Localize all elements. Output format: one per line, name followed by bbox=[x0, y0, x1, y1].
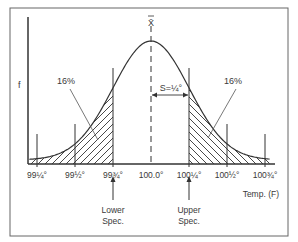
lower-spec-marker: Lower Spec. bbox=[101, 176, 124, 226]
hatch-line bbox=[269, 44, 298, 164]
lower-tail-hatch bbox=[0, 44, 298, 164]
lower-tail-leader-line bbox=[70, 89, 98, 140]
hatch-line bbox=[80, 44, 200, 164]
lower-spec-label-line2: Spec. bbox=[102, 216, 124, 226]
hatch-line bbox=[0, 44, 109, 164]
hatch-line bbox=[248, 44, 298, 164]
x-tick-label: 100½° bbox=[215, 170, 240, 180]
hatch-line bbox=[227, 44, 298, 164]
hatch-line bbox=[276, 44, 298, 164]
hatch-line bbox=[0, 44, 4, 164]
hatch-line bbox=[262, 44, 298, 164]
hatch-line bbox=[0, 44, 109, 164]
hatch-line bbox=[0, 44, 60, 164]
hatch-line bbox=[255, 44, 298, 164]
hatch-line bbox=[0, 44, 18, 164]
hatch-line bbox=[0, 44, 25, 164]
hatch-line bbox=[0, 44, 25, 164]
hatch-line bbox=[241, 44, 298, 164]
hatch-line bbox=[290, 44, 298, 164]
hatch-line bbox=[220, 44, 298, 164]
hatch-line bbox=[0, 44, 39, 164]
sigma-arrowhead-left bbox=[152, 93, 157, 98]
distribution-curve bbox=[29, 41, 269, 159]
hatch-line bbox=[227, 44, 298, 164]
hatch-line bbox=[276, 44, 298, 164]
upper-tail-hatch bbox=[0, 44, 298, 164]
hatch-line bbox=[241, 44, 298, 164]
normal-distribution-chart: 99¼°99½°99¾°100.0°100¼°100½°100¾° f X̄ S… bbox=[0, 0, 298, 242]
hatch-line bbox=[297, 44, 298, 164]
x-axis-label: Temp. (F) bbox=[243, 189, 280, 199]
sigma-arrowhead-right bbox=[183, 93, 188, 98]
y-axis-label: f bbox=[18, 80, 21, 90]
hatch-line bbox=[108, 44, 228, 164]
hatch-line bbox=[0, 44, 39, 164]
hatch-line bbox=[122, 44, 242, 164]
hatch-line bbox=[0, 44, 11, 164]
hatch-line bbox=[0, 44, 18, 164]
hatch-line bbox=[0, 44, 4, 164]
hatch-line bbox=[297, 44, 298, 164]
hatch-line bbox=[220, 44, 298, 164]
hatch-line bbox=[0, 44, 46, 164]
hatch-line bbox=[66, 44, 186, 164]
hatch-line bbox=[192, 44, 298, 164]
hatch-line bbox=[206, 44, 298, 164]
hatch-line bbox=[262, 44, 298, 164]
hatch-line bbox=[59, 44, 179, 164]
hatch-line bbox=[199, 44, 298, 164]
hatch-line bbox=[0, 44, 60, 164]
hatch-line bbox=[0, 44, 95, 164]
hatch-line bbox=[0, 44, 102, 164]
x-tick-label: 100¾° bbox=[253, 170, 278, 180]
hatch-line bbox=[199, 44, 298, 164]
mean-label: X̄ bbox=[148, 18, 154, 28]
hatch-line bbox=[248, 44, 298, 164]
hatch-line bbox=[213, 44, 298, 164]
hatch-line bbox=[185, 44, 298, 164]
sigma-annotation bbox=[152, 93, 188, 98]
lower-spec-label-line1: Lower bbox=[101, 205, 124, 215]
hatch-line bbox=[0, 44, 81, 164]
hatch-line bbox=[185, 44, 298, 164]
hatch-line bbox=[192, 44, 298, 164]
hatch-line bbox=[0, 44, 11, 164]
upper-spec-marker: Upper Spec. bbox=[177, 176, 200, 226]
x-tick-label: 100.0° bbox=[139, 170, 164, 180]
hatch-line bbox=[101, 44, 221, 164]
hatch-line bbox=[0, 44, 32, 164]
upper-spec-label-line1: Upper bbox=[177, 205, 200, 215]
hatch-line bbox=[255, 44, 298, 164]
upper-tail-percent-label: 16% bbox=[224, 76, 242, 86]
sigma-label: S=¼° bbox=[160, 83, 183, 93]
upper-spec-label-line2: Spec. bbox=[178, 216, 200, 226]
upper-tail-leader-line bbox=[208, 89, 236, 138]
hatch-line bbox=[0, 44, 81, 164]
hatch-line bbox=[0, 44, 46, 164]
hatch-line bbox=[213, 44, 298, 164]
hatch-line bbox=[283, 44, 298, 164]
hatch-line bbox=[0, 44, 32, 164]
hatch-line bbox=[0, 44, 95, 164]
hatch-line bbox=[290, 44, 298, 164]
x-tick-label: 99¼° bbox=[27, 170, 47, 180]
hatch-line bbox=[206, 44, 298, 164]
hatch-line bbox=[269, 44, 298, 164]
hatch-line bbox=[0, 44, 53, 164]
chart-frame bbox=[10, 8, 288, 236]
x-tick-label: 99½° bbox=[65, 170, 85, 180]
hatch-line bbox=[283, 44, 298, 164]
hatch-line bbox=[0, 44, 53, 164]
lower-tail-percent-label: 16% bbox=[57, 76, 75, 86]
hatch-line bbox=[0, 44, 102, 164]
